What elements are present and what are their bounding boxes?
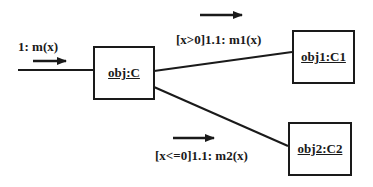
message-label-m1: [x>0]1.1: m1(x) [176,33,261,46]
object-label: obj2:C2 [298,141,343,157]
object-box-obj2: obj2:C2 [288,122,352,176]
message-label-m: 1: m(x) [18,40,58,53]
link-obj-to-obj1 [154,52,292,71]
object-label: obj:C [108,65,140,81]
object-box-obj1: obj1:C1 [292,30,355,84]
message-label-m2: [x<=0]1.1: m2(x) [155,149,248,162]
object-label: obj1:C1 [301,49,346,65]
object-box-obj: obj:C [93,46,155,100]
